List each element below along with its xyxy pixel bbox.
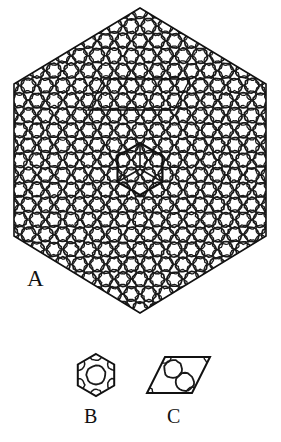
lattice-circle [195, 280, 204, 289]
lattice-circle [0, 152, 9, 167]
lattice-circle [210, 18, 225, 33]
lattice-circle [6, 41, 16, 51]
lattice-circle [264, 309, 273, 318]
lattice-circle [4, 287, 19, 302]
lattice-circle [0, 257, 1, 272]
lattice-circle [239, 284, 248, 293]
lattice-circle [58, 31, 68, 40]
lattice-circle [144, 329, 153, 338]
lattice-circle [195, 12, 205, 21]
lattice-circle [221, 324, 231, 334]
lattice-circle [279, 316, 281, 331]
lattice-circle [273, 255, 281, 265]
lattice-circle [67, 0, 76, 6]
lattice-circle [247, 61, 256, 70]
lattice-circle [0, 138, 2, 153]
lattice-circle [256, 0, 266, 6]
lattice-circle [178, 11, 187, 20]
lattice-circle [158, 316, 173, 331]
lattice-circle [29, 301, 44, 316]
lattice-circle [32, 26, 41, 36]
lattice-circle [0, 324, 7, 333]
lattice-circle [244, 316, 259, 331]
lattice-circle [264, 269, 274, 278]
lattice-circle [273, 195, 281, 205]
lattice-circle [49, 314, 59, 324]
lattice-circle [64, 4, 79, 18]
lattice-circle [255, 285, 265, 294]
lattice-circle [253, 33, 267, 48]
lattice-circle [187, 284, 197, 293]
lattice-circle [202, 302, 217, 316]
lattice-circle [196, 329, 205, 338]
lattice-circle [0, 106, 7, 116]
lattice-circle [273, 235, 281, 244]
lattice-circle [110, 1, 120, 11]
lattice-circle [55, 19, 70, 34]
lattice-circle [264, 41, 274, 50]
lattice-circle [72, 0, 86, 3]
lattice-circle [230, 41, 240, 50]
lattice-circle [170, 16, 179, 26]
lattice-circle [67, 324, 76, 334]
lattice-circle [66, 26, 76, 35]
lattice-circle [118, 324, 127, 333]
lattice-circle [21, 316, 36, 331]
lattice-circle [6, 71, 16, 81]
lattice-circle [256, 26, 266, 35]
lattice-circle [12, 34, 26, 48]
lattice-circle [264, 2, 273, 11]
lattice-circle [273, 264, 281, 273]
lattice-circle [219, 33, 233, 48]
lattice-circle [127, 329, 136, 339]
lattice-circle [236, 272, 251, 287]
lattice-circle [6, 1, 15, 11]
lattice-circle [98, 3, 112, 19]
lattice-circle [58, 279, 67, 289]
lattice-circle [41, 41, 50, 51]
lattice-circle [170, 324, 180, 334]
lattice-circle [279, 18, 281, 33]
lattice-circle [115, 302, 130, 317]
lattice-circle [0, 167, 1, 183]
lattice-circle [247, 279, 256, 289]
lattice-circle [92, 309, 101, 319]
lattice-circle [213, 2, 222, 11]
lattice-circle [6, 270, 16, 279]
lattice-circle [6, 240, 15, 249]
lattice-circle [244, 48, 259, 63]
lattice-circle [158, 0, 173, 4]
lattice-circle [23, 329, 33, 338]
lattice-circle [47, 271, 62, 287]
lattice-circle [127, 1, 136, 11]
lattice-circle [204, 284, 213, 294]
lattice-circle [84, 16, 93, 25]
lattice-circle [167, 3, 182, 18]
lattice-circle [152, 314, 162, 324]
lattice-circle [73, 287, 87, 302]
lattice-circle [270, 272, 281, 287]
lattice-circle [24, 61, 34, 70]
lattice-circle [196, 300, 205, 309]
lattice-circle [6, 309, 15, 319]
lattice-circle [247, 1, 256, 11]
lattice-circle [40, 11, 50, 20]
lattice-circle [0, 63, 10, 78]
lattice-circle [273, 314, 281, 323]
lattice-circle [176, 316, 191, 331]
lattice-circle [187, 0, 196, 6]
lattice-circle [0, 86, 7, 96]
lattice-circle [273, 26, 281, 35]
lattice-circle [279, 257, 281, 272]
lattice-circle [15, 46, 25, 56]
lattice-circle [270, 301, 281, 316]
lattice-circle [24, 299, 33, 309]
lattice-circle [227, 0, 242, 4]
lattice-circle [264, 71, 274, 80]
lattice-circle [47, 3, 62, 18]
lattice-circle [75, 1, 85, 11]
lattice-circle [253, 63, 268, 77]
lattice-circle [176, 287, 191, 302]
lattice-circle [213, 299, 222, 309]
lattice-circle [0, 284, 7, 294]
